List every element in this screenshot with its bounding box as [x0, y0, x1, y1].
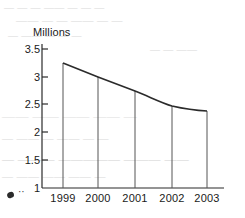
chart-plot-area — [0, 0, 245, 218]
x-tick-label-2000: 2000 — [85, 192, 110, 204]
x-tick-label-2001: 2001 — [122, 192, 147, 204]
x-tick-label-2003: 2003 — [194, 192, 219, 204]
chart-figure: — — — —— — — — —— — — —— — — — —— — — — … — [0, 0, 245, 218]
x-tick-label-1999: 1999 — [50, 192, 75, 204]
x-tick-label-2002: 2002 — [159, 192, 184, 204]
